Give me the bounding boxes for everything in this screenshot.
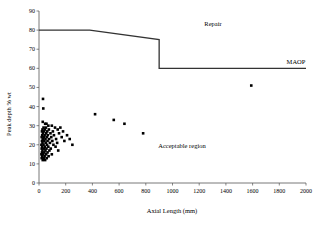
data-point xyxy=(250,84,253,87)
annotation-maop: MAOP xyxy=(287,58,306,65)
y-tick-label: 20 xyxy=(29,142,35,148)
x-tick-label: 2000 xyxy=(300,188,312,194)
x-tick-label: 200 xyxy=(61,188,70,194)
data-point xyxy=(41,159,44,162)
data-point xyxy=(142,132,145,135)
data-point xyxy=(51,140,54,143)
data-point xyxy=(57,149,60,152)
x-tick-label: 1400 xyxy=(220,188,232,194)
data-point xyxy=(54,126,57,129)
data-point xyxy=(112,119,115,122)
data-point xyxy=(56,142,59,145)
x-tick-label: 1600 xyxy=(247,188,259,194)
x-tick-label: 1000 xyxy=(167,188,179,194)
y-tick-label: 40 xyxy=(29,104,35,110)
annotation-acceptable-region: Acceptable region xyxy=(158,142,205,149)
data-point xyxy=(94,113,97,116)
data-point xyxy=(44,159,47,162)
x-axis-title: Axial Length (mm) xyxy=(147,207,198,214)
acceptance-curve xyxy=(39,30,306,68)
x-tick-label: 800 xyxy=(141,188,150,194)
x-tick-label: 1200 xyxy=(193,188,205,194)
data-point xyxy=(49,132,52,135)
data-point xyxy=(59,126,62,129)
data-point xyxy=(41,121,44,124)
y-tick-label: 0 xyxy=(32,180,35,186)
data-point xyxy=(63,140,66,143)
data-point xyxy=(51,124,54,127)
data-point xyxy=(55,138,58,141)
x-tick-label: 0 xyxy=(38,188,41,194)
data-point xyxy=(123,122,126,125)
data-point xyxy=(68,138,71,141)
data-point xyxy=(66,134,69,137)
data-point xyxy=(60,136,63,139)
plot-area: 0102030405060708090020040060080010001200… xyxy=(0,0,319,228)
x-tick-label: 400 xyxy=(88,188,97,194)
x-tick-label: 600 xyxy=(115,188,124,194)
data-point xyxy=(42,107,45,110)
chart-figure: 0102030405060708090020040060080010001200… xyxy=(0,0,319,228)
y-tick-label: 30 xyxy=(29,123,35,129)
data-point xyxy=(42,98,45,101)
data-point xyxy=(62,130,65,133)
data-point xyxy=(56,128,59,131)
x-tick-label: 1800 xyxy=(273,188,285,194)
y-tick-label: 80 xyxy=(29,27,35,33)
annotation-repair: Repair xyxy=(204,20,221,27)
y-tick-label: 70 xyxy=(29,46,35,52)
data-point xyxy=(49,142,52,145)
y-tick-label: 10 xyxy=(29,161,35,167)
data-point xyxy=(58,132,61,135)
y-axis-title: Peak depth % wt xyxy=(5,92,12,136)
data-point xyxy=(71,143,74,146)
y-tick-label: 50 xyxy=(29,84,35,90)
y-tick-label: 60 xyxy=(29,65,35,71)
data-point xyxy=(54,145,57,148)
data-point xyxy=(47,124,50,127)
data-point xyxy=(53,134,56,137)
data-point xyxy=(52,130,55,133)
data-point xyxy=(51,153,54,156)
y-tick-label: 90 xyxy=(29,8,35,14)
